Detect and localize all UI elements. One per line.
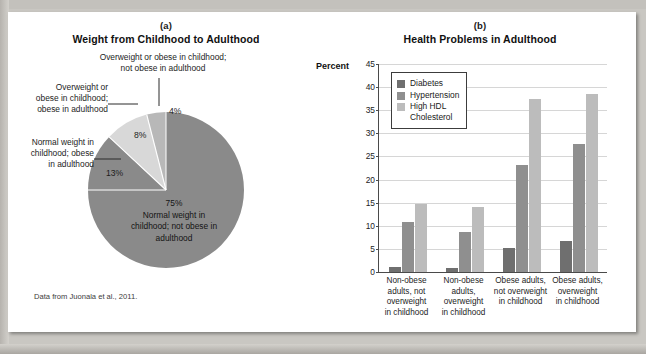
pie-center-line3: childhood; not obese in [104, 221, 244, 233]
legend-swatch-icon [397, 80, 405, 88]
callout-top-line2: not obese in adulthood [98, 63, 228, 74]
y-axis-label: Percent [316, 61, 349, 71]
bar-high-hdl-cholesterol-group-4 [586, 94, 598, 272]
callout-l-line1: Normal weight in [16, 137, 94, 148]
y-tick-label-35: 35 [366, 105, 375, 115]
legend-swatch-icon [397, 103, 405, 111]
bar-hypertension-group-2 [459, 232, 471, 272]
callout-overweight-obese: Overweight or obese in childhood; obese … [16, 82, 108, 115]
pie-value-8: 8% [134, 130, 146, 140]
y-tick-mark-10 [376, 226, 379, 227]
y-tick-mark-30 [376, 133, 379, 134]
y-tick-mark-5 [376, 249, 379, 250]
legend-label: Hypertension [410, 90, 459, 101]
legend-swatch-icon [397, 92, 405, 100]
callout-overweight-not-obese: Overweight or obese in childhood; not ob… [98, 52, 228, 74]
bar-high-hdl-cholesterol-group-1 [415, 204, 427, 272]
pie-chart: Overweight or obese in childhood; not ob… [16, 20, 316, 324]
bar-diabetes-group-3 [503, 248, 515, 272]
callout-ul-line1: Overweight or [16, 82, 108, 93]
x-label-line: overweight [543, 287, 612, 298]
x-label-line: in childhood [543, 297, 612, 308]
callout-normal-obese: Normal weight in childhood; obese in adu… [16, 137, 94, 170]
legend-item-high-hdl-cholesterol[interactable]: High HDL Cholesterol [397, 101, 459, 122]
callout-ul-line3: obese in adulthood [16, 104, 108, 115]
bar-hypertension-group-4 [573, 144, 585, 272]
pie-center-line2: Normal weight in [104, 210, 244, 222]
bar-chart-plot-area: 051015202530354045 DiabetesHypertensionH… [378, 64, 607, 273]
pie-center-line1: 75% [104, 198, 244, 210]
gridline-45 [379, 64, 607, 65]
y-tick-label-10: 10 [366, 221, 375, 231]
y-tick-label-40: 40 [366, 82, 375, 92]
pie-center-line4: adulthood [104, 233, 244, 245]
y-tick-mark-40 [376, 87, 379, 88]
bar-high-hdl-cholesterol-group-2 [472, 207, 484, 272]
y-tick-mark-45 [376, 64, 379, 65]
y-tick-mark-15 [376, 203, 379, 204]
chart-legend: DiabetesHypertensionHigh HDL Cholesterol [391, 72, 467, 129]
callout-top-line1: Overweight or obese in childhood; [98, 52, 228, 63]
y-tick-label-5: 5 [370, 244, 375, 254]
panel-b-tag: (b) [316, 20, 644, 31]
pie-value-4: 4% [169, 106, 181, 116]
legend-item-diabetes[interactable]: Diabetes [397, 78, 459, 89]
figure-page: (a) Weight from Childhood to Adulthood [0, 0, 646, 354]
y-tick-mark-25 [376, 156, 379, 157]
y-tick-mark-35 [376, 110, 379, 111]
y-tick-label-45: 45 [366, 59, 375, 69]
bar-high-hdl-cholesterol-group-3 [529, 99, 541, 272]
figure-card: (a) Weight from Childhood to Adulthood [8, 12, 636, 332]
x-label-line: in childhood [429, 308, 498, 319]
panel-b: (b) Health Problems in Adulthood Percent… [316, 20, 644, 324]
x-label-line: Obese adults, [543, 276, 612, 287]
gridline-30 [379, 133, 607, 134]
panel-b-title: Health Problems in Adulthood [316, 33, 644, 45]
callout-l-line3: in adulthood [16, 159, 94, 170]
legend-item-hypertension[interactable]: Hypertension [397, 90, 459, 101]
scan-edge-top [0, 0, 646, 9]
callout-ul-line2: obese in childhood; [16, 93, 108, 104]
bar-diabetes-group-2 [446, 268, 458, 272]
y-tick-label-15: 15 [366, 198, 375, 208]
y-tick-label-30: 30 [366, 128, 375, 138]
pie-center-label: 75% Normal weight in childhood; not obes… [104, 198, 244, 244]
source-note: Data from Juonala et al., 2011. [34, 292, 137, 301]
bar-diabetes-group-4 [560, 241, 572, 272]
legend-label: High HDL Cholesterol [410, 101, 452, 122]
y-tick-mark-20 [376, 180, 379, 181]
pie-value-13: 13% [106, 168, 123, 178]
y-tick-label-25: 25 [366, 151, 375, 161]
y-tick-label-20: 20 [366, 175, 375, 185]
callout-l-line2: childhood; obese [16, 148, 94, 159]
y-tick-mark-0 [376, 272, 379, 273]
legend-label: Diabetes [410, 78, 443, 89]
scan-edge-bottom [0, 344, 646, 354]
panel-a: (a) Weight from Childhood to Adulthood [16, 20, 316, 324]
bar-diabetes-group-1 [389, 267, 401, 272]
bar-hypertension-group-3 [516, 165, 528, 272]
bar-hypertension-group-1 [402, 222, 414, 272]
x-axis-group-label-4: Obese adults,overweightin childhood [543, 276, 612, 308]
